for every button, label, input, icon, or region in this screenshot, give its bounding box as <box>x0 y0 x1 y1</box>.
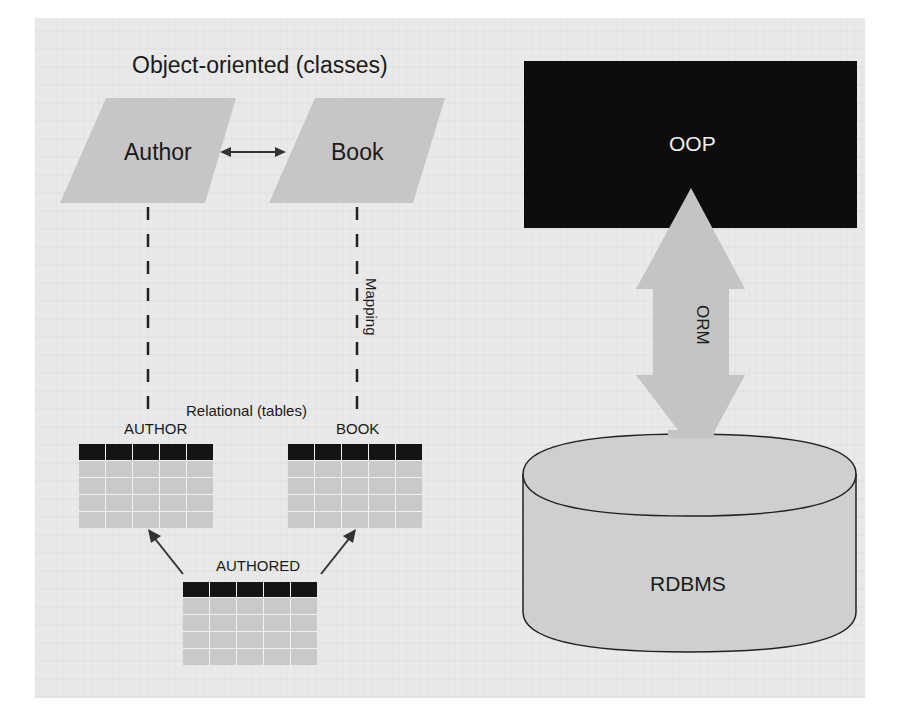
arrowhead-left-icon <box>220 147 231 157</box>
arrowhead-right-icon <box>275 147 286 157</box>
relational-title: Relational (tables) <box>186 402 307 419</box>
author-class-label: Author <box>124 139 192 166</box>
object-oriented-title: Object-oriented (classes) <box>132 52 388 79</box>
diagram-shapes <box>0 0 910 723</box>
book-class-label: Book <box>331 139 383 166</box>
mapping-label: Mapping <box>363 278 380 336</box>
author-table <box>79 444 213 528</box>
authored-table <box>183 582 317 665</box>
authored-table-label: AUTHORED <box>216 557 300 574</box>
oop-label: OOP <box>669 132 716 156</box>
author-table-label: AUTHOR <box>124 420 187 437</box>
book-table <box>288 444 422 528</box>
rdbms-label: RDBMS <box>650 572 726 596</box>
arrowhead-to-author-icon <box>148 529 161 543</box>
book-table-label: BOOK <box>336 420 379 437</box>
orm-label: ORM <box>692 305 712 345</box>
arrowhead-to-book-icon <box>343 529 356 543</box>
rdbms-cylinder <box>523 434 856 652</box>
